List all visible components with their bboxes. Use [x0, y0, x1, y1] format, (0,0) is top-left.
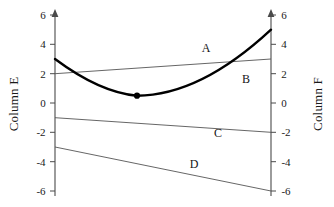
series-label-b: B [242, 72, 250, 87]
left-tick-label-2: 2 [40, 68, 46, 80]
series-label-c: C [214, 126, 222, 141]
right-tick-label-4: 4 [281, 38, 287, 50]
left-axis-ticks [50, 15, 55, 191]
left-tick-label-neg4: -4 [36, 156, 45, 168]
series-label-a: A [202, 41, 211, 56]
left-tick-label-neg6: -6 [36, 185, 45, 197]
left-tick-label-6: 6 [40, 9, 46, 21]
right-axis-ticks [271, 15, 276, 191]
right-tick-label-6: 6 [281, 9, 287, 21]
right-tick-label-neg6: -6 [281, 185, 290, 197]
series-line-a [55, 30, 271, 96]
left-tick-label-neg2: -2 [36, 126, 45, 138]
right-axis-title: Column F [310, 77, 326, 131]
left-axis-arrowhead [52, 9, 59, 17]
left-tick-label-4: 4 [40, 38, 46, 50]
right-tick-label-neg4: -4 [281, 156, 290, 168]
series-line-d [55, 147, 271, 191]
chart-container: 6 4 2 0 -2 -4 -6 6 4 2 0 -2 -4 -6 Column… [0, 0, 334, 207]
right-axis-arrowhead [268, 9, 275, 17]
left-axis-title: Column E [6, 77, 22, 132]
right-tick-label-neg2: -2 [281, 126, 290, 138]
right-tick-label-2: 2 [281, 68, 287, 80]
series-a-minimum-marker [134, 93, 140, 99]
left-tick-label-0: 0 [40, 97, 46, 109]
series-line-c [55, 118, 271, 133]
right-tick-label-0: 0 [281, 97, 287, 109]
series-label-d: D [190, 157, 199, 172]
series-line-b [55, 59, 271, 74]
